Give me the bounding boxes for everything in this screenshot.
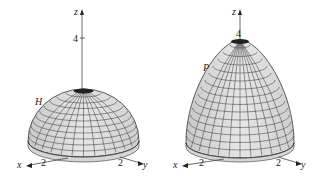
hemisphere-figure: z 4 H x 2 y 2	[16, 6, 148, 170]
z-tick-label: 4	[73, 33, 78, 44]
paraboloid-figure: z 4 P x 2 y 2	[172, 6, 306, 170]
x-tick-label: 2	[41, 157, 46, 168]
z-axis-label: z	[73, 6, 78, 17]
y-axis-label: y	[142, 159, 148, 170]
x-axis-label: x	[16, 159, 22, 170]
paraboloid-cap	[231, 39, 249, 44]
surface-label: P	[202, 62, 209, 73]
y-tick-label: 2	[118, 157, 123, 168]
y-axis-label: y	[300, 159, 306, 170]
hemisphere-mesh	[28, 89, 139, 157]
x-tick-label: 2	[199, 157, 204, 168]
z-arrow-icon	[80, 9, 84, 15]
x-axis-label: x	[172, 159, 178, 170]
x-arrow-icon	[26, 163, 32, 168]
z-tick-label: 4	[236, 28, 241, 39]
x-arrow-icon	[182, 163, 188, 168]
x-axis	[186, 159, 224, 165]
hemisphere-cap	[74, 89, 94, 94]
z-axis-label: z	[231, 6, 236, 17]
y-axis	[120, 157, 140, 163]
surface-label: H	[34, 96, 43, 107]
figure-canvas: z 4 H x 2 y 2	[0, 0, 320, 176]
y-tick-label: 2	[276, 157, 281, 168]
z-arrow-icon	[238, 9, 242, 15]
x-axis	[30, 158, 68, 165]
y-axis	[278, 157, 298, 163]
